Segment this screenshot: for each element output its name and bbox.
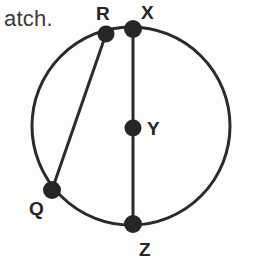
point-label-y: Y xyxy=(147,119,160,138)
point-dot-q xyxy=(43,181,61,199)
diagram-canvas: atch. R X Y Q Z xyxy=(0,0,265,280)
point-dot-z xyxy=(124,215,142,233)
point-dot-y xyxy=(125,120,142,137)
circle-figure xyxy=(0,0,265,280)
point-dot-r xyxy=(98,26,115,43)
point-dot-x xyxy=(124,20,142,38)
point-label-q: Q xyxy=(29,199,44,218)
point-label-x: X xyxy=(141,3,154,22)
point-label-r: R xyxy=(96,4,110,23)
point-label-z: Z xyxy=(139,240,151,259)
